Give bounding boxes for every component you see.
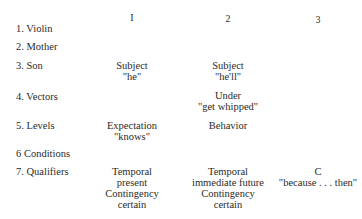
cell-line: Subject — [178, 60, 278, 71]
cell-line: Expectation — [82, 120, 182, 131]
column-header-3: 3 — [308, 14, 328, 25]
cell-line: present — [82, 177, 182, 188]
cell-line: "he'll" — [178, 71, 278, 82]
cell-levels-col1: Expectation "knows" — [82, 120, 182, 142]
cell-qualifiers-col1: Temporal present Contingency certain — [82, 166, 182, 210]
cell-line: "get whipped" — [178, 101, 278, 112]
row-label-levels: 5. Levels — [16, 120, 55, 131]
cell-levels-col2: Behavior — [178, 120, 278, 131]
cell-qualifiers-col3: C "because . . . then" — [270, 166, 362, 188]
row-label-mother: 2. Mother — [16, 41, 57, 52]
cell-line: C — [270, 166, 362, 177]
cell-line: Temporal — [178, 166, 278, 177]
cell-line: "because . . . then" — [270, 177, 362, 188]
row-label-son: 3. Son — [16, 60, 43, 71]
cell-line: certain — [178, 199, 278, 210]
cell-line: Contingency — [178, 188, 278, 199]
cell-line: Contingency — [82, 188, 182, 199]
row-label-vectors: 4. Vectors — [16, 91, 58, 102]
cell-son-col1: Subject "he" — [82, 60, 182, 82]
cell-line: Under — [178, 90, 278, 101]
cell-son-col2: Subject "he'll" — [178, 60, 278, 82]
cell-line: Subject — [82, 60, 182, 71]
cell-line: Behavior — [178, 120, 278, 131]
row-label-qualifiers: 7. Qualifiers — [16, 166, 69, 177]
cell-vectors-col2: Under "get whipped" — [178, 90, 278, 112]
column-header-2: 2 — [218, 13, 238, 24]
cell-line: immediate future — [178, 177, 278, 188]
cell-qualifiers-col2: Temporal immediate future Contingency ce… — [178, 166, 278, 210]
cell-line: certain — [82, 199, 182, 210]
row-label-conditions: 6 Conditions — [16, 148, 70, 159]
cell-line: "he" — [82, 71, 182, 82]
cell-line: "knows" — [82, 131, 182, 142]
cell-line: Temporal — [82, 166, 182, 177]
row-label-violin: 1. Violin — [16, 23, 53, 34]
column-header-1: I — [122, 12, 142, 23]
